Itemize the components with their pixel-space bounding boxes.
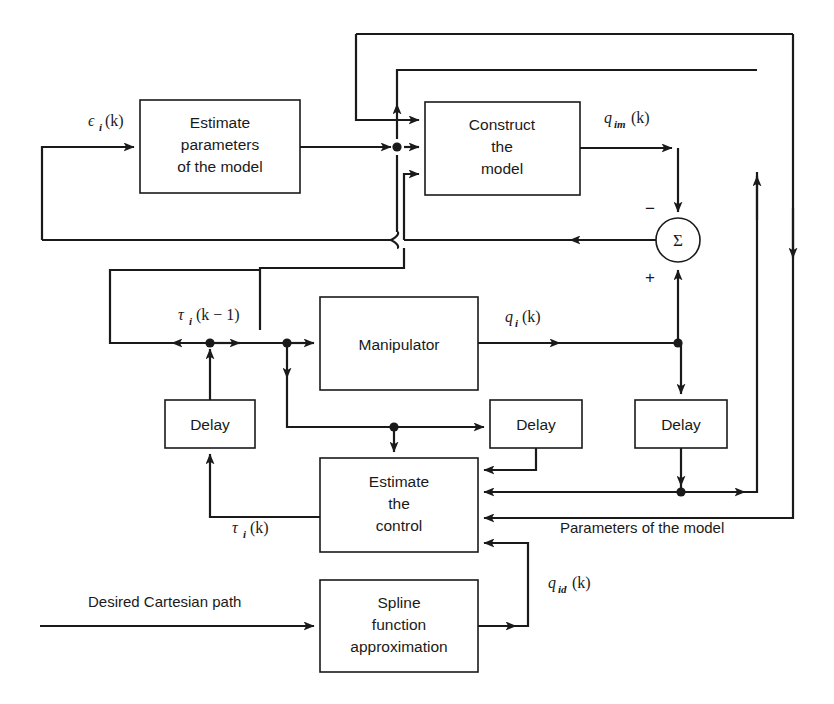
block-construct-model[interactable]: Construct the model: [425, 102, 580, 195]
minus-sign-label: −: [645, 199, 655, 218]
wire-construct-in1-from-outer-rail: [356, 34, 419, 120]
wire-construct-in3: [404, 174, 419, 240]
signal-suffix: (k − 1): [196, 306, 240, 324]
wire-tau-k-from-estcontrol: [210, 454, 320, 517]
junction-dot-estparams-out: [392, 142, 401, 151]
blocks: Estimate parameters of the model Constru…: [140, 100, 727, 672]
signal-suffix: (k): [631, 109, 650, 127]
block-label-line: Manipulator: [359, 336, 440, 353]
diagram-svg: Estimate parameters of the model Constru…: [0, 0, 834, 704]
label-parameters-of-the-model: Parameters of the model: [560, 519, 724, 536]
summing-junction[interactable]: Σ − +: [645, 199, 700, 287]
block-manipulator[interactable]: Manipulator: [320, 297, 478, 390]
wire-hop-jump: [391, 232, 398, 248]
plus-sign-label: +: [645, 268, 655, 287]
signal-label-q-im-k: q im (k): [604, 109, 650, 130]
block-diagram-canvas: Estimate parameters of the model Constru…: [0, 0, 834, 704]
block-label-line: approximation: [350, 638, 447, 655]
signal-label-tau-i-k-minus-1: τ i (k − 1): [178, 306, 240, 327]
wire-epsilon-to-estimate-parameters: [42, 147, 134, 240]
signal-subscript: i: [515, 317, 519, 329]
signal-base: ϵ: [88, 112, 95, 129]
block-label-line: the: [388, 495, 410, 512]
signal-subscript: id: [558, 583, 567, 595]
signal-label-q-i-k: q i (k): [505, 308, 541, 329]
signal-label-epsilon-i-k: ϵ i (k): [88, 112, 124, 133]
signal-subscript: i: [189, 315, 193, 327]
signal-suffix: (k): [572, 574, 591, 592]
block-estimate-parameters[interactable]: Estimate parameters of the model: [140, 100, 300, 193]
wire-delay-mid-out: [484, 448, 536, 470]
signal-label-q-id-k: q id (k): [548, 574, 591, 595]
block-delay-right[interactable]: Delay: [635, 400, 727, 448]
signal-subscript: i: [99, 121, 103, 133]
signal-suffix: (k): [250, 519, 269, 537]
signal-subscript: im: [614, 118, 626, 130]
wire-qid-up: [484, 543, 528, 626]
block-label-line: function: [372, 616, 426, 633]
block-label-line: Estimate: [369, 473, 429, 490]
block-label-line: Delay: [661, 416, 701, 433]
signal-suffix: (k): [522, 308, 541, 326]
junction-dot-tau-delay: [205, 338, 214, 347]
signal-subscript: i: [243, 528, 247, 540]
block-spline-function-approximation[interactable]: Spline function approximation: [320, 580, 478, 672]
signal-base: q: [505, 308, 513, 326]
block-delay-left[interactable]: Delay: [165, 400, 255, 448]
wire-top-rail-inner: [397, 70, 757, 104]
block-label-line: of the model: [177, 158, 262, 175]
block-label-line: parameters: [181, 136, 260, 153]
signal-base: q: [548, 574, 556, 592]
block-delay-middle[interactable]: Delay: [490, 400, 582, 448]
sigma-symbol: Σ: [673, 231, 683, 250]
signal-suffix: (k): [105, 112, 124, 130]
signal-base: τ: [232, 519, 239, 536]
block-label-line: Construct: [469, 116, 536, 133]
block-label-line: the: [491, 138, 513, 155]
block-estimate-control[interactable]: Estimate the control: [320, 458, 478, 552]
label-desired-cartesian-path: Desired Cartesian path: [88, 593, 241, 610]
wire-inner-right-rail-up: [745, 172, 757, 492]
block-label-line: Delay: [516, 416, 556, 433]
block-label-line: control: [376, 517, 423, 534]
block-label-line: Spline: [377, 594, 420, 611]
block-label-line: Delay: [190, 416, 230, 433]
signal-base: q: [604, 109, 612, 127]
signal-label-tau-i-k: τ i (k): [232, 519, 269, 540]
block-label-line: model: [481, 160, 523, 177]
block-label-line: Estimate: [190, 114, 250, 131]
signal-base: τ: [178, 306, 185, 323]
